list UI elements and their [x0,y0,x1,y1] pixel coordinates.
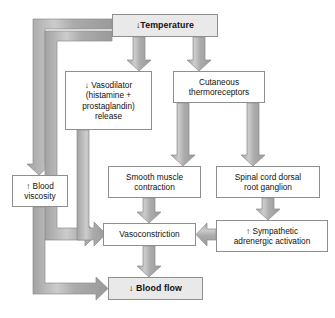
sympathetic-line-1: ↑ Sympathetic [246,226,298,236]
vasodilator-line-3: prostaglandin) [82,101,135,111]
edge-vasoconstriction-to-blood-flow [137,246,161,277]
spinal-cord-line-2: root ganglion [244,182,292,192]
spinal-cord-label: Spinal cord dorsal root ganglion [233,172,303,192]
edge-spinal-cord-to-sympathetic [256,198,280,220]
blood-flow-label: ↓ Blood flow [127,283,184,293]
edge-thermoreceptors-to-smooth-muscle [171,103,195,166]
temperature-node[interactable]: ↓Temperature [112,14,218,37]
smooth-muscle-line-1: Smooth muscle [126,172,183,182]
smooth-muscle-line-2: contraction [134,182,175,192]
sympathetic-label: ↑ Sympathetic adrenergic activation [232,226,313,246]
blood-viscosity-line-2: viscosity [24,191,55,201]
vasodilator-line-1: ↓ Vasodilator [85,80,132,90]
spinal-cord-dorsal-root-ganglion-node[interactable]: Spinal cord dorsal root ganglion [216,166,320,198]
smooth-muscle-contraction-node[interactable]: Smooth muscle contraction [108,166,201,198]
edge-sympathetic-to-vasoconstriction [196,223,216,246]
diagram-canvas: ↓Temperature ↓ Vasodilator (histamine + … [0,0,335,318]
temperature-label: ↓Temperature [134,20,196,30]
vasodilator-node[interactable]: ↓ Vasodilator (histamine + prostaglandin… [65,71,152,130]
edge-blood-viscosity-to-blood-flow [33,207,108,300]
arrow-layer [0,0,335,318]
vasodilator-label: ↓ Vasodilator (histamine + prostaglandin… [80,80,137,121]
thermoreceptors-line-1: Cutaneous [199,77,239,87]
vasodilator-line-2: (histamine + [86,90,131,100]
cutaneous-thermoreceptors-node[interactable]: Cutaneous thermoreceptors [173,71,265,103]
edge-vasodilator-to-vasoconstriction [77,130,106,246]
vasodilator-line-4: release [95,111,122,121]
sympathetic-adrenergic-activation-node[interactable]: ↑ Sympathetic adrenergic activation [216,220,328,252]
vasoconstriction-label: Vasoconstriction [117,229,181,239]
thermoreceptors-line-2: thermoreceptors [189,87,249,97]
edge-temperature-to-thermoreceptors [187,37,211,71]
edge-temperature-to-vasodilator [127,37,151,71]
sympathetic-line-2: adrenergic activation [234,236,311,246]
cutaneous-thermoreceptors-label: Cutaneous thermoreceptors [187,77,251,97]
edge-thermoreceptors-to-spinal-cord [241,103,265,166]
blood-viscosity-line-1: ↑ Blood [26,181,54,191]
edge-smooth-muscle-to-vasoconstriction [137,198,161,223]
blood-viscosity-node[interactable]: ↑ Blood viscosity [12,175,68,207]
blood-flow-node[interactable]: ↓ Blood flow [108,277,203,300]
blood-viscosity-label: ↑ Blood viscosity [22,181,57,201]
smooth-muscle-contraction-label: Smooth muscle contraction [124,172,185,192]
vasoconstriction-node[interactable]: Vasoconstriction [103,223,196,246]
spinal-cord-line-1: Spinal cord dorsal [235,172,301,182]
